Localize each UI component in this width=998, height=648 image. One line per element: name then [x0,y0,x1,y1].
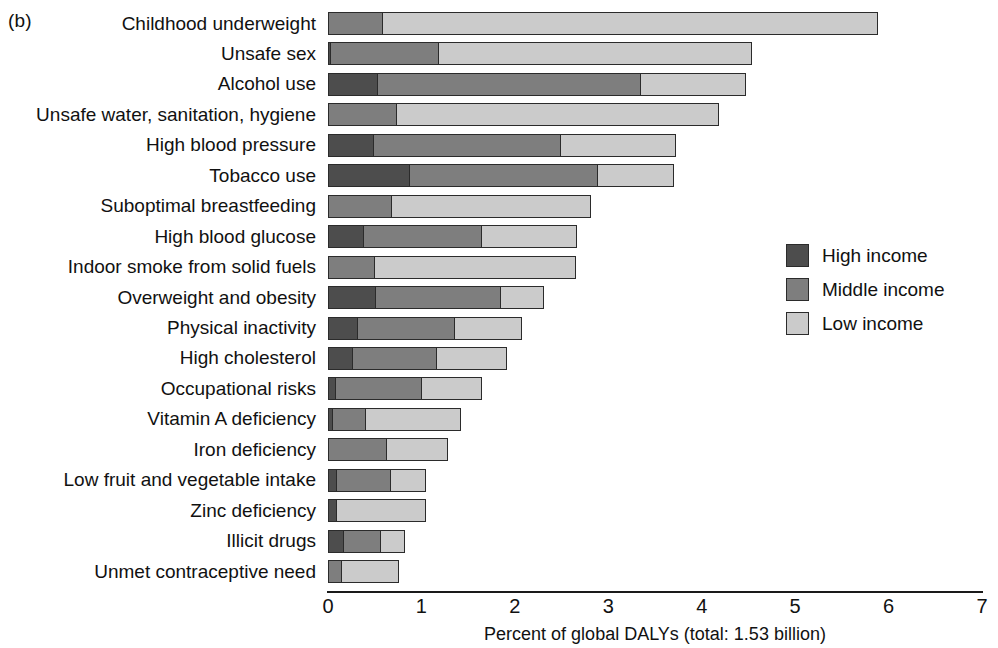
bar-segment-high [328,164,410,187]
category-label: Vitamin A deficiency [147,409,316,428]
bar-segment-high [328,530,344,553]
x-tick-label: 7 [976,596,987,616]
bar-segment-high [328,225,364,248]
category-label: Illicit drugs [226,531,316,550]
bar-segment-low [386,438,449,461]
bar-segment-low [454,317,522,340]
category-label: High blood pressure [146,135,316,154]
bar-row [328,256,576,279]
bar-row [328,560,399,583]
legend-item: Middle income [786,274,945,304]
category-label: Low fruit and vegetable intake [64,470,316,489]
bar-segment-middle [330,42,439,65]
bar-segment-low [341,560,399,583]
bar-row [328,377,482,400]
bar-row [328,469,426,492]
x-tick-label: 1 [416,596,427,616]
bar-segment-low [438,42,752,65]
category-label: Unsafe sex [221,44,316,63]
category-label: Unmet contraceptive need [94,562,316,581]
bar-row [328,347,507,370]
bar-row [328,195,591,218]
x-tick-label: 0 [322,596,333,616]
bar-row [328,438,448,461]
bar-segment-middle [328,560,342,583]
bar-segment-low [390,469,426,492]
category-label: Iron deficiency [193,440,316,459]
bar-row [328,73,746,96]
bar-segment-middle [328,103,397,126]
category-label: Alcohol use [218,74,316,93]
category-label: Physical inactivity [167,318,316,337]
bar-segment-high [328,286,376,309]
legend-item: High income [786,240,945,270]
bar-segment-middle [328,256,375,279]
x-axis-title: Percent of global DALYs (total: 1.53 bil… [328,625,982,643]
bar-segment-middle [373,134,561,157]
bar-segment-middle [335,377,422,400]
category-label: Indoor smoke from solid fuels [68,257,316,276]
legend: High incomeMiddle incomeLow income [786,240,945,342]
bar-segment-high [328,134,374,157]
bar-segment-middle [332,408,367,431]
x-tick-label: 2 [509,596,520,616]
category-label: High blood glucose [154,227,316,246]
figure-panel-b: (b) Childhood underweightUnsafe sexAlcoh… [0,0,998,648]
bar-row [328,499,426,522]
bar-row [328,103,719,126]
legend-swatch-high [786,244,809,267]
category-label: Unsafe water, sanitation, hygiene [36,105,316,124]
bar-segment-middle [357,317,455,340]
bar-segment-high [328,317,358,340]
x-tick-label: 5 [790,596,801,616]
legend-swatch-low [786,312,809,335]
bar-segment-low [382,12,878,35]
bar-row [328,225,577,248]
bar-segment-middle [328,438,387,461]
bar-segment-low [640,73,747,96]
bar-segment-middle [377,73,640,96]
bar-segment-middle [375,286,501,309]
bar-segment-low [365,408,461,431]
x-tick-label: 3 [603,596,614,616]
category-label: Tobacco use [209,166,316,185]
bar-row [328,317,522,340]
panel-label: (b) [8,10,32,32]
bar-segment-low [436,347,507,370]
bar-segment-middle [328,195,392,218]
bar-segment-low [374,256,577,279]
x-tick-label: 4 [696,596,707,616]
bar-segment-low [500,286,544,309]
category-label: Zinc deficiency [190,501,316,520]
bar-segment-middle [343,530,381,553]
bar-segment-high [328,73,378,96]
bar-segment-low [336,499,426,522]
bar-row [328,134,676,157]
bar-segment-low [421,377,482,400]
bar-segment-middle [328,12,383,35]
bar-segment-low [391,195,591,218]
bar-row [328,12,878,35]
bar-segment-low [380,530,405,553]
bar-segment-high [328,347,353,370]
bar-segment-middle [409,164,598,187]
legend-swatch-middle [786,278,809,301]
bar-segment-middle [336,469,390,492]
category-label: Occupational risks [161,379,316,398]
bar-segment-middle [363,225,482,248]
bar-row [328,164,674,187]
bar-segment-low [396,103,719,126]
category-label: High cholesterol [180,348,316,367]
legend-label: High income [822,246,928,265]
bar-segment-low [597,164,674,187]
legend-label: Low income [822,314,923,333]
category-label: Overweight and obesity [117,288,316,307]
bar-row [328,530,405,553]
legend-item: Low income [786,308,945,338]
category-label: Suboptimal breastfeeding [101,196,316,215]
bar-row [328,42,752,65]
category-label: Childhood underweight [122,14,316,33]
bar-segment-low [481,225,577,248]
legend-label: Middle income [822,280,945,299]
bar-row [328,286,544,309]
